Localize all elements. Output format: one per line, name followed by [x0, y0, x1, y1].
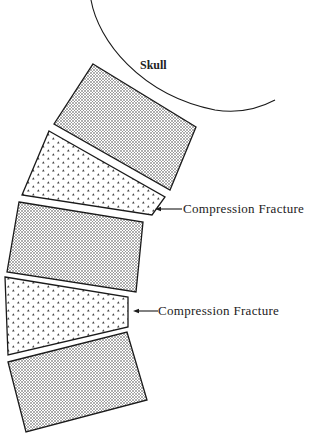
- compression-fracture-label: Compression Fracture: [183, 201, 304, 216]
- vertebra-3: [7, 202, 143, 292]
- fracture-annotation-2: Compression Fracture: [133, 303, 279, 318]
- spine-diagram: Skull Compression Fracture Compression F…: [0, 0, 321, 438]
- compression-fracture-label: Compression Fracture: [158, 303, 279, 318]
- skull-label: Skull: [140, 58, 167, 72]
- fracture-annotation-1: Compression Fracture: [155, 201, 304, 216]
- vertebrae-column: [5, 64, 196, 432]
- arrowhead-icon: [133, 309, 139, 313]
